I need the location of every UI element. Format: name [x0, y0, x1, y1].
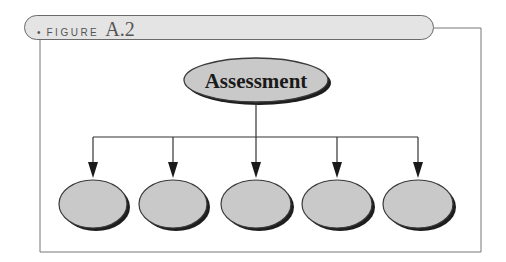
arrow-down-icon	[413, 162, 423, 178]
child-node-1	[59, 180, 130, 231]
child-nodes	[59, 180, 456, 231]
child-node-2	[139, 180, 210, 231]
arrow-down-icon	[88, 162, 98, 178]
root-node-label: Assessment	[205, 69, 308, 93]
child-node-3	[221, 180, 294, 231]
root-node: Assessment	[184, 58, 331, 105]
arrow-down-icon	[251, 162, 261, 178]
arrow-down-icon	[168, 162, 178, 178]
child-node-4	[302, 180, 375, 231]
connectors	[93, 102, 418, 163]
hierarchy-diagram: Assessment	[0, 0, 506, 262]
arrowheads	[88, 162, 423, 178]
child-node-5	[383, 180, 456, 231]
arrow-down-icon	[332, 162, 342, 178]
